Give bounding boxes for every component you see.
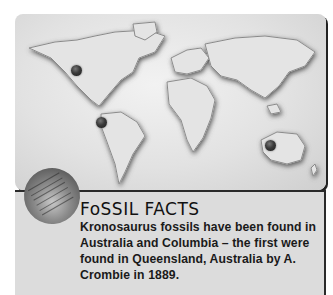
south-america-marker-icon (96, 117, 107, 128)
fossil-facts-body: Kronosaurus fossils have been found in A… (80, 219, 320, 283)
australia-marker-icon (265, 140, 276, 151)
fossil-facts-title: FoSSIL FACTS (80, 199, 200, 219)
north-america-marker-icon (71, 65, 82, 76)
world-map-panel (15, 14, 326, 190)
world-map-image (15, 14, 326, 190)
